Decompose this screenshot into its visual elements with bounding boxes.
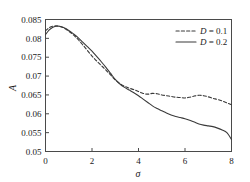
chart-legend: D = 0.1D = 0.2: [176, 26, 227, 47]
x-axis-title: σ: [136, 168, 142, 179]
x-tick-label-1: 2: [90, 156, 95, 166]
y-tick-label-2: 0.06: [26, 109, 42, 119]
y-tick-label-7: 0.085: [21, 15, 42, 25]
x-tick-label-3: 6: [183, 156, 188, 166]
y-tick-label-6: 0.08: [26, 34, 42, 44]
chart-figure: 0.050.0550.060.0650.070.0750.080.085 024…: [0, 0, 250, 182]
legend-label-0: D = 0.1: [199, 26, 227, 36]
y-tick-label-0: 0.05: [26, 147, 42, 157]
y-axis-tick-labels: 0.050.0550.060.0650.070.0750.080.085: [21, 15, 42, 157]
x-tick-label-4: 8: [229, 156, 234, 166]
y-tick-label-1: 0.055: [21, 128, 42, 138]
legend-label-1: D = 0.2: [199, 37, 227, 47]
y-tick-label-5: 0.075: [21, 52, 42, 62]
x-axis-ticks: [46, 148, 232, 152]
x-tick-label-0: 0: [43, 156, 48, 166]
y-tick-label-4: 0.07: [26, 71, 42, 81]
x-tick-label-2: 4: [136, 156, 141, 166]
y-tick-label-3: 0.065: [21, 90, 42, 100]
x-axis-tick-labels: 02468: [43, 156, 234, 166]
chart-plot-area: 0.050.0550.060.0650.070.0750.080.085 024…: [0, 0, 250, 182]
y-axis-ticks: [46, 20, 50, 152]
y-axis-title: A: [7, 84, 18, 92]
